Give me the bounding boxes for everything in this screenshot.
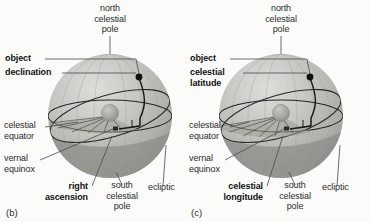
- label-object: object: [5, 53, 31, 64]
- panel-tag-c: (c): [191, 207, 202, 218]
- leader-ecliptic: [337, 145, 340, 186]
- label-celestial-equator: celestial equator: [4, 120, 36, 141]
- label-celestial-longitude: celestial longitude: [193, 181, 263, 202]
- panel-equatorial: north celestial pole object declination …: [0, 0, 186, 222]
- label-declination: declination: [5, 67, 51, 78]
- label-ecliptic: ecliptic: [322, 182, 349, 193]
- vernal-equinox-marker: [113, 127, 118, 131]
- leader-ecliptic: [163, 145, 166, 186]
- label-celestial-latitude: celestial latitude: [190, 67, 225, 88]
- object-point: [307, 74, 314, 81]
- label-right-ascension: right ascension: [18, 181, 88, 202]
- label-vernal-equinox: vernal equinox: [189, 153, 220, 174]
- label-south-celestial-pole: south celestial pole: [96, 180, 148, 212]
- panel-ecliptic: north celestial pole object celestial la…: [185, 0, 371, 222]
- label-celestial-equator: celestial equator: [189, 120, 221, 141]
- earth-sphere: [102, 105, 119, 122]
- earth-sphere: [273, 105, 290, 122]
- label-north-celestial-pole: north celestial pole: [249, 3, 313, 35]
- label-south-celestial-pole: south celestial pole: [269, 180, 321, 212]
- object-point: [136, 74, 143, 81]
- vernal-equinox-marker: [284, 127, 289, 131]
- label-object: object: [190, 53, 216, 64]
- panel-tag-b: (b): [6, 207, 18, 218]
- label-vernal-equinox: vernal equinox: [4, 153, 35, 174]
- figure-root: north celestial pole object declination …: [0, 0, 371, 222]
- label-north-celestial-pole: north celestial pole: [78, 3, 142, 35]
- label-ecliptic: ecliptic: [148, 182, 175, 193]
